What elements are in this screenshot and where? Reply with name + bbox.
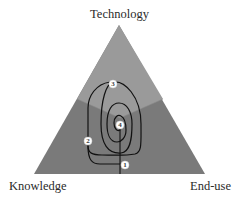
vertex-label-end-use: End-use bbox=[190, 180, 231, 193]
diagram-graphic: 1 2 3 4 bbox=[0, 0, 239, 198]
marker-3: 3 bbox=[109, 80, 117, 88]
marker-4: 4 bbox=[116, 121, 124, 129]
svg-text:1: 1 bbox=[123, 161, 127, 169]
vertex-label-technology: Technology bbox=[0, 8, 239, 21]
vertex-label-knowledge: Knowledge bbox=[9, 180, 67, 193]
marker-2: 2 bbox=[84, 137, 92, 145]
svg-text:2: 2 bbox=[86, 137, 90, 145]
technology-region bbox=[77, 25, 163, 118]
marker-1: 1 bbox=[121, 161, 129, 169]
triangle-diagram: 1 2 3 4 Technology Knowledge End-use bbox=[0, 0, 239, 198]
svg-text:4: 4 bbox=[118, 121, 122, 129]
svg-text:3: 3 bbox=[111, 80, 115, 88]
